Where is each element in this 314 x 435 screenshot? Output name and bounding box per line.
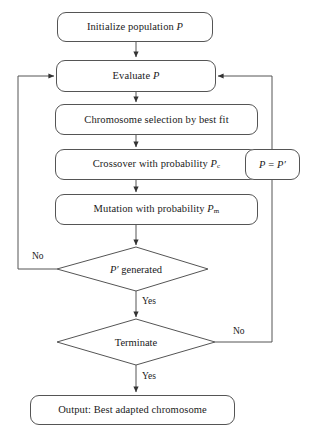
subscript-c: c bbox=[217, 162, 220, 170]
symbol-p: P bbox=[177, 21, 184, 32]
node-evaluate-label: Evaluate P bbox=[113, 70, 160, 82]
decision-p-generated-label[interactable]: P′ generated bbox=[76, 258, 196, 280]
node-mutation[interactable]: Mutation with probability Pm bbox=[55, 194, 258, 225]
edge-label-p-generated-yes: Yes bbox=[141, 296, 157, 306]
edge-label-terminate-no: No bbox=[232, 326, 246, 336]
node-selection-label: Chromosome selection by best fit bbox=[84, 114, 228, 126]
symbol-p: P bbox=[153, 70, 160, 81]
node-crossover[interactable]: Crossover with probability Pc bbox=[55, 149, 258, 180]
edge-label-p-generated-no: No bbox=[31, 251, 45, 261]
node-output-best-chromosome[interactable]: Output: Best adapted chromosome bbox=[30, 395, 235, 425]
flowchart-canvas: Initialize population P Evaluate P Chrom… bbox=[0, 0, 314, 435]
node-initialize-population[interactable]: Initialize population P bbox=[57, 12, 213, 42]
node-chromosome-selection[interactable]: Chromosome selection by best fit bbox=[55, 104, 258, 135]
subscript-m: m bbox=[214, 207, 220, 215]
node-mutation-label: Mutation with probability Pm bbox=[94, 203, 220, 216]
decision-terminate-label[interactable]: Terminate bbox=[76, 331, 196, 353]
node-initialize-label: Initialize population P bbox=[87, 21, 183, 33]
node-assign-p-equals-p-prime[interactable]: P = P′ bbox=[245, 149, 300, 180]
symbol-p-prime: P′ bbox=[110, 264, 119, 275]
node-evaluate-population[interactable]: Evaluate P bbox=[56, 60, 216, 92]
node-output-label: Output: Best adapted chromosome bbox=[58, 404, 207, 416]
node-assign-label: P = P′ bbox=[259, 159, 286, 171]
edge-label-terminate-yes: Yes bbox=[141, 371, 157, 381]
node-crossover-label: Crossover with probability Pc bbox=[93, 158, 221, 171]
